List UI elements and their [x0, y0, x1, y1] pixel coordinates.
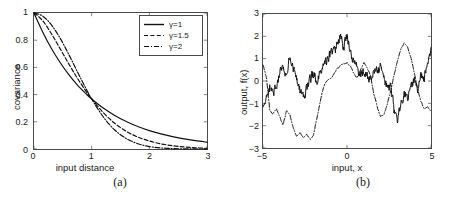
- plot-b-xtick-5: 5: [429, 152, 434, 161]
- plot-b-ytick-m2: −2: [229, 122, 259, 131]
- plot-b-canvas: [263, 14, 431, 148]
- caption-b: (b): [343, 176, 383, 188]
- plot-a-ytick-5: 1: [2, 8, 28, 17]
- plot-a-xtick-1: 1: [89, 152, 94, 161]
- caption-a: (a): [100, 176, 140, 188]
- plot-b-xtick-m5: −5: [257, 152, 267, 161]
- series-line: [263, 34, 431, 123]
- plot-a-ytick-4: 0.8: [2, 35, 28, 44]
- legend-item-gamma-1-5: γ=1.5: [143, 30, 198, 41]
- legend-label-gamma-1-5: γ=1.5: [169, 32, 189, 40]
- plot-b-ytick-m3: −3: [229, 145, 259, 154]
- plot-b-xtick-0: 0: [344, 152, 349, 161]
- panel-b: 3 2 1 0 −1 −2 −3 −5 0 5 input, x output,…: [227, 0, 454, 199]
- series-line: [263, 43, 431, 139]
- panel-a: 0 0.2 0.4 0.6 0.8 1 0 1 2 3 input distan…: [0, 0, 227, 199]
- legend-item-gamma-1: γ=1: [143, 19, 198, 30]
- legend-line-solid-icon: [143, 20, 165, 29]
- legend-label-gamma-1: γ=1: [169, 21, 182, 29]
- plot-b-axes: [262, 13, 432, 149]
- plot-a-xtick-0: 0: [30, 152, 35, 161]
- plot-a-xtick-2: 2: [147, 152, 152, 161]
- plot-a-ytick-1: 0.2: [2, 118, 28, 127]
- plot-a-xtick-3: 3: [205, 152, 210, 161]
- figure-container: 0 0.2 0.4 0.6 0.8 1 0 1 2 3 input distan…: [0, 0, 454, 199]
- legend-label-gamma-2: γ=2: [169, 43, 182, 51]
- legend-line-dashed-icon: [143, 31, 165, 40]
- plot-b-ylabel: output, f(x): [239, 70, 249, 115]
- plot-a-xlabel: input distance: [56, 163, 115, 173]
- plot-b-xlabel: input, x: [332, 163, 363, 173]
- plot-a-legend: γ=1 γ=1.5 γ=2: [139, 15, 203, 56]
- plot-b-ytick-1: 1: [229, 54, 259, 63]
- legend-item-gamma-2: γ=2: [143, 41, 198, 52]
- plot-a-ylabel: covariance: [12, 64, 22, 110]
- plot-b-ytick-2: 2: [229, 31, 259, 40]
- plot-b-ytick-3: 3: [229, 9, 259, 18]
- plot-a-ytick-0: 0: [2, 146, 28, 155]
- legend-line-dashdot-icon: [143, 42, 165, 51]
